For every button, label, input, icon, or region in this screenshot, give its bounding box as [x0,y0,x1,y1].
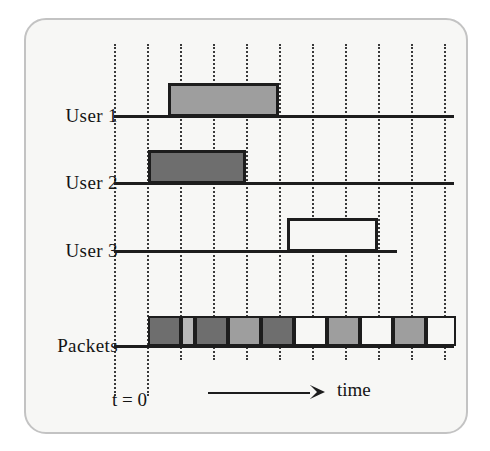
packet-9 [393,316,426,346]
plot-area: User 1 User 2 User 3 Packets t = 0 time [0,0,490,451]
row-label-user-3: User 3 [38,240,118,262]
packet-2 [181,316,195,346]
burst-user-3 [287,218,378,252]
burst-user-2 [148,150,246,184]
figure-canvas: User 1 User 2 User 3 Packets t = 0 time [0,0,490,451]
packet-4 [228,316,261,346]
time-arrow-line [208,392,313,394]
row-label-packets: Packets [25,335,118,357]
packet-6 [294,316,327,346]
gridline-10 [411,44,413,360]
time-label: time [337,379,371,401]
packet-3 [195,316,228,346]
gridline-9 [378,44,380,360]
packet-5 [261,316,294,346]
burst-user-1 [168,83,279,117]
time-arrow-head [310,385,325,399]
gridline-11 [444,44,446,360]
packet-8 [360,316,393,346]
packet-10 [426,316,456,346]
packet-7 [327,316,360,346]
packet-1 [148,316,181,346]
origin-label: t = 0 [112,389,147,411]
gridline-8 [345,44,347,360]
axis-user-1 [114,115,454,118]
gridline-6 [279,44,281,360]
row-label-user-2: User 2 [38,172,118,194]
row-label-user-1: User 1 [38,105,118,127]
gridline-7 [312,44,314,360]
